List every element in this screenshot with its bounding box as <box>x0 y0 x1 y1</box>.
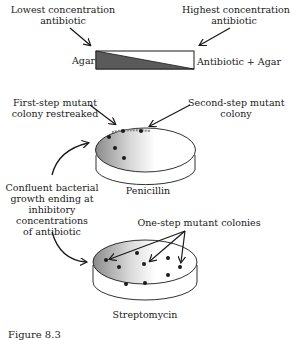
streptomycin-label: Streptomycin <box>110 309 180 320</box>
confluent-growth-label: Confluent bacterial growth ending at inh… <box>2 182 102 237</box>
penicillin-dish <box>96 128 196 185</box>
penicillin-label: Penicillin <box>118 185 178 196</box>
one-step-colonies-label: One-step mutant colonies <box>137 217 261 228</box>
streptomycin-dish <box>93 240 197 300</box>
second-step-label: Second-step mutant colony <box>188 97 284 119</box>
antibiotic-agar-label: Antibiotic + Agar <box>197 56 281 67</box>
low-arrow <box>70 28 90 45</box>
second-step-arrow <box>150 105 190 126</box>
first-step-label: First-step mutant colony restreaked <box>10 97 100 119</box>
lowest-concentration-label: Lowest concentration antibiotic <box>8 4 118 26</box>
figure-caption: Figure 8.3 <box>8 329 61 340</box>
agar-label: Agar <box>72 55 95 66</box>
confluent-arrow-up <box>52 143 88 175</box>
high-arrow <box>200 28 230 45</box>
highest-concentration-label: Highest concentration antibiotic <box>182 4 286 26</box>
gradient-wedge <box>96 51 194 69</box>
